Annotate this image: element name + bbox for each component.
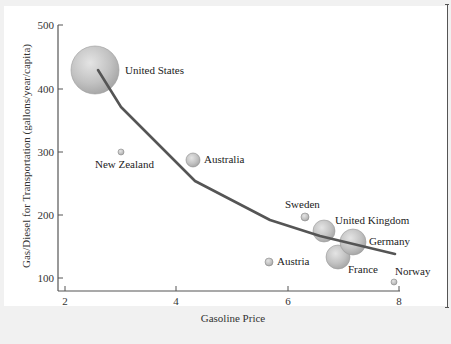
label-united-states: United States <box>125 64 184 76</box>
bubble-austria[interactable] <box>265 258 273 266</box>
x-tick-2: 2 <box>62 295 68 307</box>
bubble-chart: 500 400 300 200 100 2 4 6 8 Gasoline Pri… <box>0 0 451 344</box>
x-axis-title: Gasoline Price <box>201 312 266 324</box>
y-tick-400: 400 <box>38 83 55 95</box>
bubble-norway[interactable] <box>391 279 397 285</box>
label-united-kingdom: United Kingdom <box>335 214 410 226</box>
y-tick-200: 200 <box>38 209 55 221</box>
y-axis-title: Gas/Diesel for Transportation (gallons/y… <box>20 44 33 268</box>
label-norway: Norway <box>395 265 431 277</box>
y-axis <box>58 25 63 291</box>
label-new-zealand: New Zealand <box>95 158 154 170</box>
bubble-australia[interactable] <box>186 153 200 167</box>
bubble-new-zealand[interactable] <box>118 149 124 155</box>
bubble-united-states[interactable] <box>71 46 119 94</box>
x-tick-6: 6 <box>285 295 291 307</box>
x-tick-4: 4 <box>173 295 179 307</box>
label-france: France <box>348 263 378 275</box>
y-tick-500: 500 <box>38 19 55 31</box>
label-germany: Germany <box>369 235 410 247</box>
label-australia: Australia <box>204 153 244 165</box>
bubble-sweden[interactable] <box>301 213 309 221</box>
y-tick-100: 100 <box>38 272 55 284</box>
y-tick-300: 300 <box>38 146 55 158</box>
label-austria: Austria <box>277 255 310 267</box>
label-sweden: Sweden <box>285 198 320 210</box>
x-axis <box>58 286 400 291</box>
x-tick-8: 8 <box>396 295 402 307</box>
